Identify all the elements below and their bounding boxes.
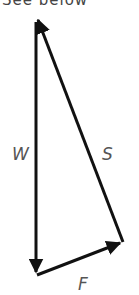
label-f: F (78, 274, 88, 294)
vector-f (37, 243, 120, 275)
label-w: W (12, 144, 30, 164)
vector-triangle-diagram: W S F (0, 0, 139, 295)
vector-s (38, 20, 123, 242)
label-s: S (102, 144, 113, 164)
